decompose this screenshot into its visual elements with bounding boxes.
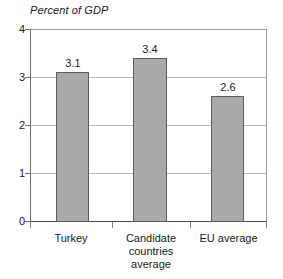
y-axis-tick-labels: 4 3 2 1 0 (0, 0, 25, 279)
category-label-turkey-line-0: Turkey (30, 232, 112, 245)
ytick-mark-4 (25, 29, 31, 30)
category-tick-1 (112, 222, 113, 228)
chart-axis-title: Percent of GDP (30, 4, 108, 16)
category-label-candidate-line-0: Candidate (112, 232, 190, 245)
category-label-candidate-line-2: average (112, 258, 190, 271)
category-label-turkey: Turkey (30, 232, 112, 245)
bar-value-eu-average: 2.6 (207, 82, 249, 93)
category-label-eu-line-0: EU average (190, 232, 267, 245)
ytick-label-1: 1 (3, 168, 25, 179)
chart-figure: Percent of GDP 4 3 2 1 0 3.1 3.4 2.6 Tur… (0, 0, 283, 279)
category-label-candidate-line-1: countries (112, 245, 190, 258)
bar-turkey (56, 72, 89, 222)
category-tick-2 (190, 222, 191, 228)
ytick-mark-2 (25, 125, 31, 126)
category-label-eu-average: EU average (190, 232, 267, 245)
ytick-label-3: 3 (3, 72, 25, 83)
bar-eu-average (211, 96, 244, 222)
ytick-label-4: 4 (3, 24, 25, 35)
ytick-label-0: 0 (3, 216, 25, 227)
bar-value-candidate-countries-average: 3.4 (129, 44, 171, 55)
ytick-mark-3 (25, 77, 31, 78)
category-tick-0 (30, 222, 31, 228)
bar-candidate-countries-average (133, 58, 167, 222)
ytick-mark-1 (25, 173, 31, 174)
bar-value-turkey: 3.1 (52, 58, 94, 69)
category-tick-3 (266, 222, 267, 228)
ytick-label-2: 2 (3, 120, 25, 131)
category-label-candidate-countries-average: Candidate countries average (112, 232, 190, 271)
